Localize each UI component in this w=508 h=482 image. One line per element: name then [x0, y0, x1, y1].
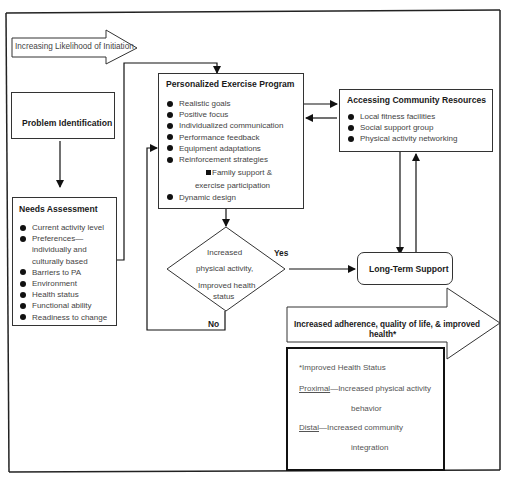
- outcome-arrow-line-2: health*: [369, 330, 396, 339]
- problem-identification-box: Problem Identification: [11, 92, 115, 139]
- needs-item: Environment: [19, 278, 112, 289]
- program-item: Realistic goals: [166, 98, 299, 109]
- decision-yes-label: Yes: [274, 248, 288, 258]
- long-term-support-box: Long-Term Support: [357, 252, 453, 285]
- community-resources-list: Local fitness facilities Social support …: [347, 111, 488, 145]
- decision-line-4: status: [213, 292, 234, 301]
- needs-assessment-list: Current activity level Preferences— indi…: [19, 222, 112, 323]
- needs-item: Health status: [19, 289, 112, 300]
- square-bullet-icon: [206, 170, 211, 175]
- needs-assessment-title: Needs Assessment: [19, 204, 112, 214]
- community-item: Social support group: [347, 122, 488, 133]
- note-title: *Improved Health Status: [299, 363, 386, 372]
- health-status-note-box: *Improved Health Status Proximal—Increas…: [286, 347, 445, 471]
- decision-line-2: physical activity,: [196, 264, 253, 273]
- program-item: Performance feedback: [166, 132, 299, 143]
- program-item: Equipment adaptations: [166, 143, 299, 154]
- community-item: Physical activity networking: [347, 133, 488, 144]
- community-resources-box: Accessing Community Resources Local fitn…: [339, 89, 493, 152]
- community-resources-title: Accessing Community Resources: [347, 95, 488, 105]
- note-proximal: Proximal—Increased physical activity: [299, 384, 431, 393]
- program-sub-item-cont: exercise participation: [166, 180, 299, 191]
- program-sub-item: Family support &: [166, 167, 299, 178]
- problem-identification-title: Problem Identification: [22, 118, 112, 128]
- decision-line-3: Improved health: [198, 281, 255, 290]
- community-item: Local fitness facilities: [347, 111, 488, 122]
- needs-assessment-box: Needs Assessment Current activity level …: [12, 197, 117, 326]
- initiation-arrow-label: Increasing Likelihood of Initiation: [15, 42, 134, 51]
- needs-item: Current activity level: [19, 222, 112, 233]
- program-item: Dynamic design: [166, 192, 299, 203]
- program-item: Positive focus: [166, 109, 299, 120]
- outcome-arrow-line-1: Increased adherence, quality of life, & …: [294, 320, 480, 329]
- needs-item: Preferences— individually and culturally…: [19, 233, 102, 267]
- proximal-term: Proximal: [299, 384, 330, 393]
- decision-no-label: No: [208, 319, 219, 329]
- needs-item: Barriers to PA: [19, 267, 112, 278]
- note-proximal-cont: behavior: [351, 404, 382, 413]
- exercise-program-list: Realistic goals Positive focus Individua…: [166, 98, 299, 203]
- decision-line-1: Increased: [207, 248, 242, 257]
- needs-item: Functional ability: [19, 300, 112, 311]
- program-item: Individualized communication: [166, 120, 299, 131]
- exercise-program-box: Personalized Exercise Program Realistic …: [158, 73, 304, 209]
- needs-item: Readiness to change: [19, 312, 112, 323]
- distal-term: Distal: [299, 423, 319, 432]
- exercise-program-title: Personalized Exercise Program: [166, 79, 299, 89]
- note-distal-cont: integration: [351, 443, 388, 452]
- program-item: Reinforcement strategies: [166, 154, 299, 165]
- note-distal: Distal—Increased community: [299, 423, 403, 432]
- long-term-support-title: Long-Term Support: [369, 264, 449, 274]
